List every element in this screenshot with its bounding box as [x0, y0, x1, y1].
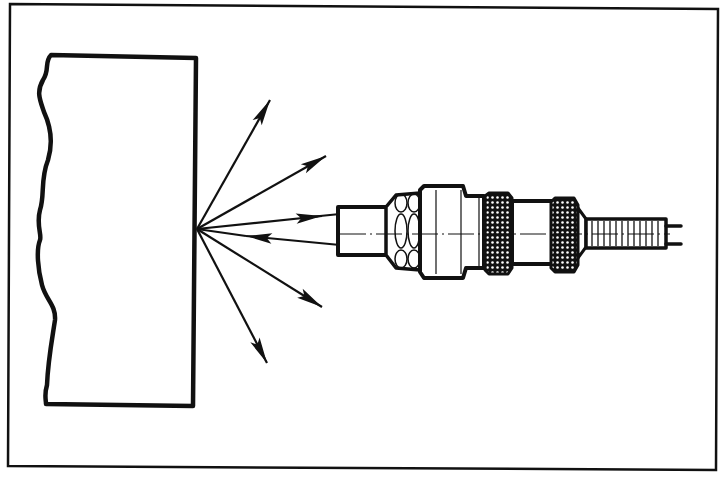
proximity-sensor: [338, 186, 681, 278]
knurled-nut-2: [551, 198, 578, 272]
scattered-rays: [197, 100, 340, 363]
diagram-svg: [0, 0, 723, 477]
sensor-thread: [386, 193, 420, 270]
ray-to-sensor-tail: [300, 214, 340, 218]
ray-up-steep: [197, 100, 270, 229]
ray-returning: [246, 236, 340, 245]
sensor-lens-tip: [338, 207, 388, 255]
sensor-body: [420, 186, 484, 278]
ray-down-steep: [197, 229, 267, 363]
diagram-canvas: [0, 0, 723, 477]
sensor-mid: [512, 201, 552, 264]
target-object: [38, 55, 196, 406]
